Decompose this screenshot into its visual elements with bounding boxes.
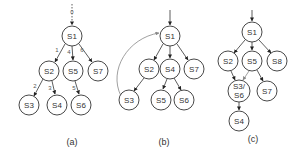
node-s7: S7: [184, 59, 204, 79]
node-s4: S4: [229, 111, 249, 131]
node-s2: S2: [218, 51, 238, 71]
edge-s1-s2: [234, 40, 245, 53]
edge-label: 4: [67, 49, 71, 55]
svg-text:S2: S2: [223, 57, 233, 66]
svg-text:S7: S7: [189, 65, 199, 74]
node-s3: S3: [19, 95, 39, 115]
node-s7: S7: [88, 61, 108, 81]
node-s3-s6-merged: S3/S6: [228, 80, 250, 102]
edge-label: 1: [55, 47, 59, 53]
edge-s1-s2: [154, 44, 163, 60]
panel-a: 0 1 4 6 2 3 5 S1 S2 S5 S7 S3 S4 S6 (a): [19, 4, 108, 147]
edge-s2-s4: [52, 81, 55, 94]
node-s5: S5: [151, 90, 171, 110]
svg-text:S4: S4: [52, 101, 62, 110]
svg-text:S8: S8: [272, 57, 282, 66]
svg-text:S7: S7: [93, 67, 103, 76]
svg-text:S6: S6: [179, 96, 189, 105]
svg-text:S6: S6: [234, 91, 244, 100]
node-s5: S5: [63, 61, 83, 81]
state-graph-figure: 0 1 4 6 2 3 5 S1 S2 S5 S7 S3 S4 S6 (a) S…: [0, 0, 301, 156]
svg-text:S5: S5: [156, 96, 166, 105]
svg-text:S5: S5: [68, 67, 78, 76]
node-s2: S2: [39, 61, 59, 81]
svg-text:S6: S6: [76, 101, 86, 110]
svg-text:S3: S3: [24, 101, 34, 110]
edge-s1-s7: [177, 44, 188, 60]
panel-b: S1 S2 S4 S7 S3 S5 S6 (b): [117, 10, 204, 147]
svg-text:S4: S4: [234, 117, 244, 126]
edge-s5-s7: [257, 70, 263, 81]
node-s2: S2: [139, 59, 159, 79]
svg-text:S5: S5: [247, 57, 257, 66]
edge-s4-s6: [174, 78, 181, 90]
edge-label: 2: [33, 83, 37, 89]
node-s7: S7: [257, 81, 277, 101]
edge-label: 5: [72, 85, 76, 91]
svg-text:S2: S2: [144, 65, 154, 74]
svg-text:S1: S1: [165, 32, 175, 41]
edge-label: 3: [48, 85, 52, 91]
edge-s5-s3s6: [243, 71, 249, 80]
node-s6: S6: [174, 90, 194, 110]
node-s5: S5: [242, 51, 262, 71]
svg-text:S2: S2: [44, 67, 54, 76]
svg-text:S3/: S3/: [233, 82, 246, 91]
edge-s2-s3: [134, 78, 144, 91]
node-s4: S4: [160, 59, 180, 79]
node-s6: S6: [71, 95, 91, 115]
edge-label: 0: [70, 9, 74, 15]
node-s1: S1: [242, 22, 262, 42]
caption-a: (a): [67, 137, 78, 147]
svg-text:S4: S4: [165, 65, 175, 74]
node-s3: S3: [119, 90, 139, 110]
edge-s1-s8: [259, 40, 271, 53]
node-s1: S1: [160, 26, 180, 46]
caption-b: (b): [159, 137, 170, 147]
edge-s2-s3s6: [231, 71, 235, 80]
edge-s1-s5: [72, 46, 73, 60]
svg-text:S1: S1: [247, 28, 257, 37]
node-s1: S1: [62, 26, 82, 46]
caption-c: (c): [248, 134, 259, 144]
svg-text:S1: S1: [67, 32, 77, 41]
svg-text:S3: S3: [124, 96, 134, 105]
node-s8: S8: [267, 51, 287, 71]
node-s4: S4: [47, 95, 67, 115]
svg-text:S7: S7: [262, 87, 272, 96]
panel-c: S1 S2 S5 S8 S3/S6 S7 S4 (c): [218, 10, 287, 144]
edge-s4-s5: [163, 79, 167, 89]
